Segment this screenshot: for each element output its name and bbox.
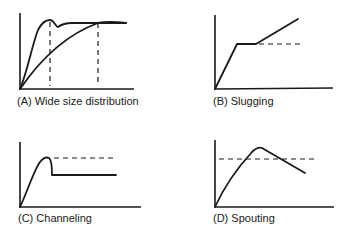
panel-c-plot: [20, 142, 141, 207]
panel-d-caption: (D) Spouting: [213, 212, 275, 224]
panel-c-caption: (C) Channeling: [18, 212, 92, 224]
fluidization-diagram: [0, 0, 346, 233]
panel-a-wide-curve: [20, 22, 126, 89]
panel-d-curve: [215, 148, 305, 207]
panel-b-plot: [215, 15, 333, 89]
panel-b-curve: [215, 19, 298, 89]
panel-a-axes: [20, 13, 134, 89]
panel-d-plot: [215, 140, 334, 207]
panel-a-plot: [20, 13, 134, 89]
panel-b-caption: (B) Slugging: [213, 95, 274, 107]
panel-a-narrow-curve: [20, 20, 126, 89]
panel-d-axes: [215, 140, 334, 207]
panel-a-caption: (A) Wide size distribution: [17, 95, 139, 107]
panel-c-curve: [20, 157, 116, 207]
